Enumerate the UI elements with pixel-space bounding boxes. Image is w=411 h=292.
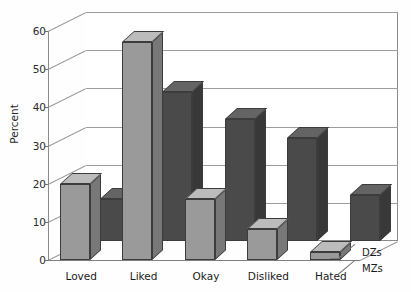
bar-dzs-disliked [247,229,277,260]
chart-figure: Percent 0102030405060 LovedLikedOkayDisl… [0,0,411,292]
y-tick-label: 60 [20,27,46,35]
y-tick-label: 20 [20,180,46,188]
front-scale-edge [48,31,49,260]
gridline [86,12,398,13]
x-axis-label-loved: Loved [50,270,112,282]
bar-front-face [247,229,277,260]
depth-connector [48,12,86,32]
depth-connector [48,127,86,147]
y-tick-label: 40 [20,103,46,111]
bar-front-face [185,199,215,260]
bar-side-face [317,128,328,241]
bar-front-face [60,184,90,260]
x-axis-label-okay: Okay [175,270,237,282]
depth-connector [48,50,86,70]
y-tick-label: 0 [20,256,46,264]
legend-label-dzs: DZs [362,247,382,258]
y-tick-label: 50 [20,65,46,73]
bar-side-face [152,33,163,260]
bar-mzs-okay [225,119,255,241]
bar-front-face [225,119,255,241]
x-axis-label-disliked: Disliked [237,270,299,282]
bar-dzs-liked [122,42,152,260]
bar-dzs-okay [185,199,215,260]
legend-tick-dzs [330,258,340,259]
bar-front-face [287,138,317,241]
y-tick-label: 30 [20,142,46,150]
bar-mzs-disliked [287,138,317,241]
y-axis: 0102030405060 [0,0,46,292]
plot-area: LovedLikedOkayDislikedHated [48,12,398,260]
bar-side-face [215,189,226,260]
bar-front-face [122,42,152,260]
bar-mzs-hated [350,195,380,241]
chart-title [0,0,411,5]
bar-side-face [90,174,101,260]
depth-connector [48,88,86,108]
x-axis-label-liked: Liked [112,270,174,282]
floor-front-edge [48,260,360,261]
bar-front-face [350,195,380,241]
x-axis-label-hated: Hated [300,270,362,282]
y-tick-label: 10 [20,218,46,226]
bar-dzs-loved [60,184,90,260]
legend-label-mzs: MZs [362,263,383,274]
